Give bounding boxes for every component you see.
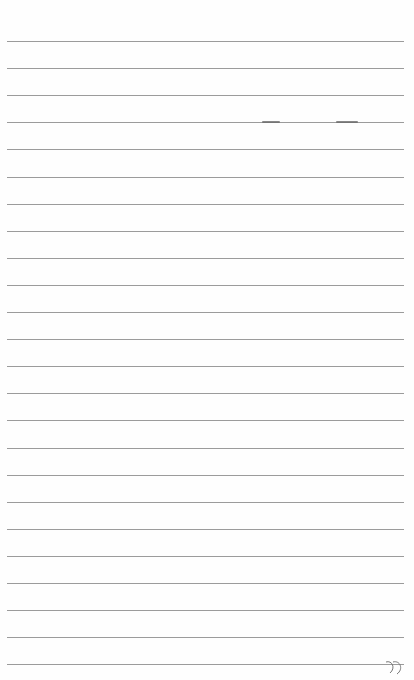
ruled-line (7, 339, 404, 340)
ruled-line (7, 41, 404, 42)
ruled-line (7, 420, 404, 421)
ruled-line (7, 610, 404, 611)
ruled-line (7, 149, 404, 150)
ruled-line (7, 177, 404, 178)
ruled-line (7, 529, 404, 530)
ruled-line (7, 556, 404, 557)
ruled-line (7, 637, 404, 638)
ruled-line (7, 366, 404, 367)
ruled-line (7, 664, 404, 665)
ruled-line (7, 68, 404, 69)
ruled-line (7, 312, 404, 313)
ink-smudge (262, 121, 280, 123)
ruled-line (7, 258, 404, 259)
ruled-line (7, 95, 404, 96)
ruled-line (7, 204, 404, 205)
ruled-line (7, 448, 404, 449)
ruled-line (7, 231, 404, 232)
ruled-line (7, 583, 404, 584)
ruled-line (7, 502, 404, 503)
ruled-line (7, 393, 404, 394)
ruled-line (7, 475, 404, 476)
lined-paper (0, 0, 414, 680)
pen-squiggle-mark (384, 660, 408, 676)
ruled-line (7, 285, 404, 286)
ink-smudge (336, 121, 358, 123)
